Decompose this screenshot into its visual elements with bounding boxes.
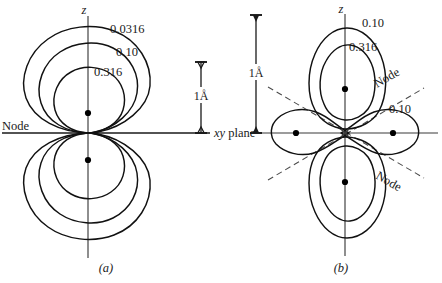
- panel-a-contour-label-0.316: 0.316: [94, 65, 122, 79]
- panel-b-contour-label-0.10-right: 0.10: [389, 102, 411, 116]
- panel-b-nucleus-right: [390, 130, 396, 136]
- orbital-contour-figure: z 0.0316 0.10 0.316 Node xy plane 1Å (a): [0, 0, 442, 283]
- panel-a-node-label: Node: [2, 119, 30, 133]
- panel-a: z 0.0316 0.10 0.316 Node xy plane 1Å (a): [2, 3, 256, 275]
- panel-b-contour-0.316-upper: [320, 45, 375, 120]
- panel-a-nucleus-upper: [85, 110, 91, 116]
- panel-b-contour-label-0.316: 0.316: [349, 40, 377, 54]
- panel-b-node-label-lower: Node: [374, 168, 405, 194]
- panel-a-caption: (a): [99, 261, 114, 275]
- panel-b-z-axis-label: z: [338, 2, 344, 16]
- panel-a-contour-label-0.10: 0.10: [116, 45, 138, 59]
- panel-a-z-axis-label: z: [81, 3, 87, 17]
- panel-b-nucleus-left: [293, 130, 299, 136]
- figure-svg: z 0.0316 0.10 0.316 Node xy plane 1Å (a): [0, 0, 442, 283]
- panel-a-scale-label: 1Å: [194, 89, 209, 103]
- panel-b-nucleus-bottom: [342, 179, 348, 185]
- panel-a-xy-italic: xy: [213, 126, 226, 140]
- panel-b-nucleus-top: [342, 86, 348, 92]
- panel-b-node-label-upper: Node: [372, 65, 403, 91]
- panel-a-contour-0.316-lower: [54, 133, 125, 199]
- panel-b-contour-label-0.10-top: 0.10: [362, 16, 384, 30]
- panel-b-scale-arrow-up: [253, 15, 259, 22]
- panel-a-nucleus-lower: [85, 157, 91, 163]
- panel-a-xy-plane-label: xy plane: [213, 126, 256, 140]
- panel-a-contour-label-0.0316: 0.0316: [110, 22, 144, 36]
- panel-a-scale-bar: 1Å: [190, 62, 212, 133]
- panel-b-scale-label: 1Å: [249, 66, 264, 80]
- panel-b: z 0.10 0.316 0.10 Node Node 1Å (b): [245, 2, 438, 275]
- panel-b-scale-bar: 1Å: [245, 15, 268, 133]
- panel-b-contour-0.10-right: [341, 110, 419, 155]
- panel-b-caption: (b): [334, 261, 349, 275]
